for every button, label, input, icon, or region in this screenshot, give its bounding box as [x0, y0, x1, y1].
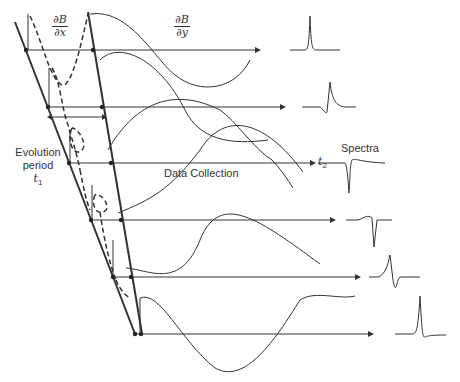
arrow-heads: [47, 47, 374, 337]
nmr-evolution-diagram: [0, 0, 460, 382]
label-dBdy: ∂B ∂y: [174, 14, 190, 39]
label-evolution-period: Evolution period t1: [8, 146, 68, 189]
label-data-collection: Data Collection: [164, 167, 239, 180]
acquisition-arrows: [26, 50, 368, 334]
spectra-traces: [290, 16, 446, 337]
evolution-line-right: [88, 12, 142, 334]
label-dBdx: ∂B ∂x: [52, 14, 68, 39]
label-t2: t2: [318, 155, 327, 172]
label-spectra: Spectra: [341, 142, 379, 155]
